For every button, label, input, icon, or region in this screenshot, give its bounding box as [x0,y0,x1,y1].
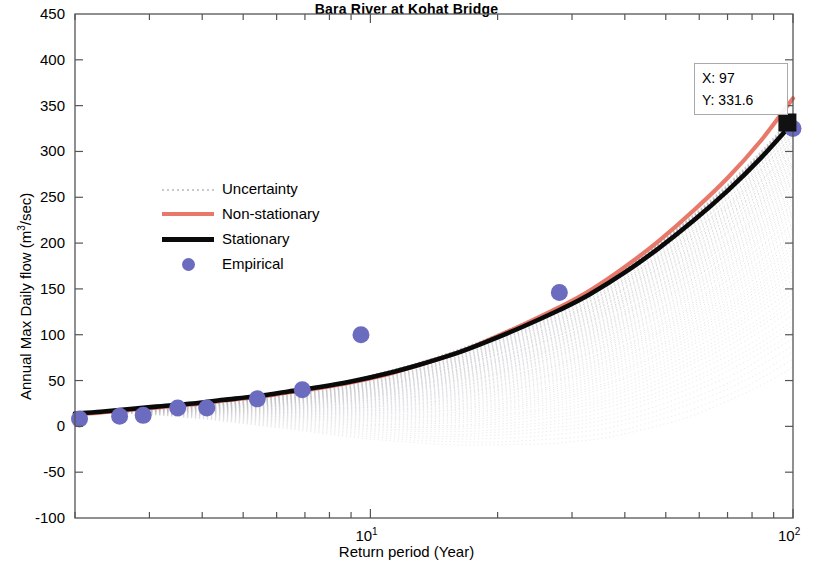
plot-area [0,0,813,574]
legend-label: Stationary [222,230,290,247]
legend-label: Non-stationary [222,205,320,222]
legend-item-non-stationary[interactable]: Non-stationary [160,203,360,228]
datatip-y: Y: 331.6 [702,90,787,112]
uncertainty-band [75,115,793,445]
legend-label: Empirical [222,255,284,272]
dotted-line-icon [162,189,214,191]
datatip-marker [778,113,796,131]
figure-canvas: Bara River at Kohat Bridge Annual Max Da… [0,0,813,574]
circle-marker-icon [182,258,195,271]
solid-line-icon [162,212,214,216]
legend-item-uncertainty[interactable]: Uncertainty [160,178,360,203]
legend-label: Uncertainty [222,180,298,197]
chart-legend: Uncertainty Non-stationary Stationary Em… [160,178,360,278]
datatip-box[interactable]: X: 97 Y: 331.6 [694,63,788,115]
datatip-x: X: 97 [702,68,787,90]
legend-item-empirical[interactable]: Empirical [160,253,360,278]
legend-item-stationary[interactable]: Stationary [160,228,360,253]
solid-line-icon [162,237,214,242]
